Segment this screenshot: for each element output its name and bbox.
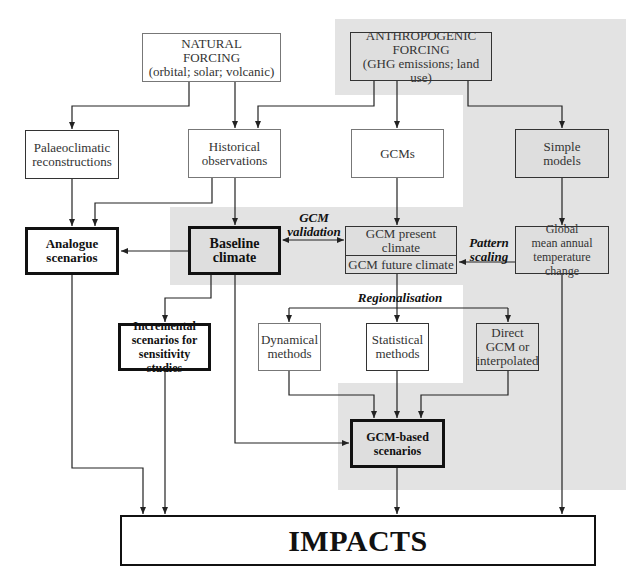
pattern-scaling-label: Pattern scaling — [464, 236, 514, 264]
gcm-based-scenarios-label: GCM-based scenarios — [366, 430, 429, 458]
gcm-climate-node: GCM present climate GCM future climate — [345, 226, 457, 274]
gcm-present-climate: GCM present climate — [346, 227, 456, 255]
simple-models-label: Simple models — [543, 140, 581, 168]
gcms-node: GCMs — [351, 129, 444, 178]
historical-observations-node: Historical observations — [188, 129, 281, 178]
regionalisation-label: Regionalisation — [350, 291, 450, 305]
statistical-methods-label: Statistical methods — [372, 333, 423, 361]
gcm-based-scenarios-node: GCM-based scenarios — [350, 419, 445, 468]
incremental-scenarios-node: Incremental scenarios for sensitivity st… — [118, 323, 211, 371]
anthropogenic-forcing-node: ANTHROPOGENIC FORCING (GHG emissions; la… — [350, 32, 492, 81]
baseline-climate-node: Baseline climate — [188, 226, 281, 275]
natural-forcing-node: NATURAL FORCING (orbital; solar; volcani… — [142, 33, 281, 82]
gcm-present-climate-label: GCM present climate — [346, 227, 456, 255]
gcm-future-climate: GCM future climate — [346, 255, 456, 273]
gcm-validation-label: GCM validation — [283, 211, 345, 239]
anthropogenic-forcing-label: ANTHROPOGENIC FORCING (GHG emissions; la… — [351, 29, 491, 85]
palaeoclimatic-node: Palaeoclimatic reconstructions — [25, 130, 119, 179]
dynamical-methods-node: Dynamical methods — [258, 323, 321, 371]
impacts-label: IMPACTS — [288, 534, 428, 548]
statistical-methods-node: Statistical methods — [366, 323, 429, 371]
simple-models-node: Simple models — [515, 129, 609, 178]
global-mean-temperature-label: Global mean annual temperature change — [516, 222, 608, 278]
incremental-scenarios-label: Incremental scenarios for sensitivity st… — [121, 319, 208, 375]
gcm-future-climate-label: GCM future climate — [348, 258, 453, 272]
impacts-node: IMPACTS — [120, 515, 596, 566]
connector-lines — [0, 0, 643, 582]
analogue-scenarios-node: Analogue scenarios — [25, 227, 119, 275]
natural-forcing-label: NATURAL FORCING (orbital; solar; volcani… — [149, 37, 275, 79]
historical-observations-label: Historical observations — [202, 140, 268, 168]
global-mean-temperature-node: Global mean annual temperature change — [515, 226, 609, 274]
gcms-label: GCMs — [380, 147, 415, 161]
palaeoclimatic-label: Palaeoclimatic reconstructions — [32, 141, 111, 169]
direct-gcm-label: Direct GCM or interpolated — [476, 326, 538, 368]
direct-gcm-node: Direct GCM or interpolated — [476, 323, 539, 371]
analogue-scenarios-label: Analogue scenarios — [46, 237, 99, 265]
baseline-climate-label: Baseline climate — [210, 237, 260, 265]
dynamical-methods-label: Dynamical methods — [261, 333, 318, 361]
